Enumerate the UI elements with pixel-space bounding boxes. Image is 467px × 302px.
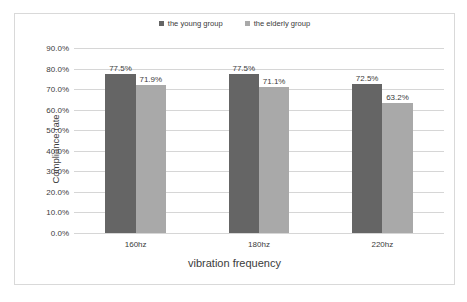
x-axis-title: vibration frequency (15, 257, 454, 269)
y-tick-label: 10.0% (46, 208, 69, 217)
chart-legend: the young groupthe elderly group (15, 19, 454, 28)
bar-group-220hz: 72.5%63.2% (321, 48, 444, 233)
bar-value-label: 77.5% (232, 64, 255, 73)
bar-value-label: 71.9% (139, 75, 162, 84)
y-tick-label: 30.0% (46, 167, 69, 176)
y-tick-label: 70.0% (46, 85, 69, 94)
bar-180hz-series-1[interactable]: 71.1% (259, 48, 289, 233)
y-tick-label: 0.0% (51, 229, 69, 238)
legend-swatch-icon (159, 21, 164, 26)
x-tick-label-180hz: 180hz (248, 240, 270, 249)
bar-rect (229, 74, 259, 233)
y-tick-label: 50.0% (46, 126, 69, 135)
bars-layer: 77.5%71.9%77.5%71.1%72.5%63.2% (74, 48, 444, 233)
x-tick-label-220hz: 220hz (371, 240, 393, 249)
bar-220hz-series-0[interactable]: 72.5% (352, 48, 382, 233)
bar-rect (259, 87, 289, 233)
plot-area: 90.0%80.0%70.0%60.0%50.0%40.0%30.0%20.0%… (74, 48, 444, 233)
bar-220hz-series-1[interactable]: 63.2% (382, 48, 412, 233)
y-tick-label: 80.0% (46, 64, 69, 73)
bar-group-180hz: 77.5%71.1% (197, 48, 320, 233)
x-tick-label-160hz: 160hz (125, 240, 147, 249)
bar-rect (105, 74, 135, 233)
legend-entry-1[interactable]: the elderly group (245, 19, 311, 28)
bar-180hz-series-0[interactable]: 77.5% (229, 48, 259, 233)
y-tick-label: 40.0% (46, 146, 69, 155)
y-tick-label: 20.0% (46, 187, 69, 196)
bar-value-label: 63.2% (386, 93, 409, 102)
bar-rect (382, 103, 412, 233)
legend-swatch-icon (245, 21, 250, 26)
bar-rect (352, 84, 382, 233)
bar-value-label: 77.5% (109, 64, 132, 73)
y-tick-label: 60.0% (46, 105, 69, 114)
bar-value-label: 72.5% (356, 74, 379, 83)
bar-value-label: 71.1% (263, 77, 286, 86)
bar-rect (136, 85, 166, 233)
bar-160hz-series-1[interactable]: 71.9% (136, 48, 166, 233)
legend-label: the young group (168, 19, 223, 28)
bar-160hz-series-0[interactable]: 77.5% (105, 48, 135, 233)
gridline: 0.0% (74, 233, 444, 234)
y-tick-label: 90.0% (46, 44, 69, 53)
legend-entry-0[interactable]: the young group (159, 19, 223, 28)
bar-chart-figure: the young groupthe elderly group Complia… (14, 13, 455, 285)
bar-group-160hz: 77.5%71.9% (74, 48, 197, 233)
x-axis-tick-labels: 160hz180hz220hz (74, 240, 444, 254)
legend-label: the elderly group (254, 19, 311, 28)
